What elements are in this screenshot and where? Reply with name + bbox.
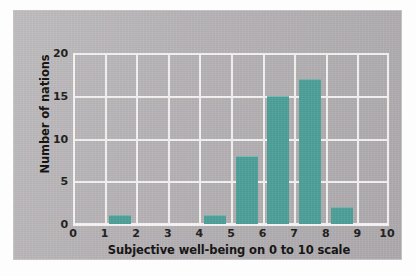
y-tick-label: 10 (53, 134, 68, 145)
gridline-x-5 (231, 53, 233, 224)
y-tick-label: 5 (61, 176, 68, 187)
x-tick-label: 0 (64, 228, 82, 239)
x-tick-label: 5 (222, 228, 240, 239)
chart-card: Number of nations 20 15 10 5 0 (14, 11, 401, 259)
chart-figure: Number of nations 20 15 10 5 0 (0, 0, 416, 276)
gridline-x-3 (168, 53, 170, 224)
x-axis-ticks: 0 1 2 3 4 5 6 7 8 9 10 (73, 228, 389, 242)
gridline-x-6 (263, 53, 265, 224)
x-tick-label: 3 (159, 228, 177, 239)
x-tick-label: 2 (127, 228, 145, 239)
bar-bin-1 (109, 215, 131, 224)
gridline-x-2 (136, 53, 138, 224)
bar-bin-5 (236, 156, 258, 224)
y-axis-ticks: 20 15 10 5 0 (46, 53, 68, 224)
bar-bin-8 (331, 207, 353, 224)
y-tick-label: 20 (53, 48, 68, 59)
x-tick-label: 10 (378, 228, 396, 239)
x-tick-label: 6 (254, 228, 272, 239)
x-tick-label: 8 (317, 228, 335, 239)
x-axis-label: Subjective well-being on 0 to 10 scale (54, 243, 404, 257)
gridline-x-1 (105, 53, 107, 224)
y-tick-label: 15 (53, 91, 68, 102)
y-axis-line (73, 53, 75, 224)
gridline-x-7 (294, 53, 296, 224)
gridline-x-10 (387, 53, 389, 224)
x-tick-label: 9 (348, 228, 366, 239)
plot-area (73, 53, 389, 224)
bar-bin-6 (267, 96, 289, 224)
bar-bin-4 (204, 215, 226, 224)
bar-bin-7 (299, 79, 321, 224)
x-tick-label: 1 (96, 228, 114, 239)
gridline-x-4 (199, 53, 201, 224)
x-tick-label: 4 (190, 228, 208, 239)
gridline-x-8 (326, 53, 328, 224)
gridline-x-9 (357, 53, 359, 224)
x-tick-label: 7 (285, 228, 303, 239)
